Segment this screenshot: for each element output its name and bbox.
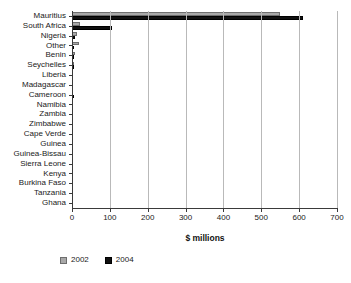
category-label: Guinea	[0, 139, 66, 149]
x-axis-tick	[186, 208, 187, 212]
gridline	[110, 11, 111, 208]
x-axis-tick-label: 0	[52, 213, 92, 223]
gridline	[337, 11, 338, 208]
category-label: Sierra Leone	[0, 159, 66, 169]
x-axis-tick	[148, 208, 149, 212]
category-label: Seychelles	[0, 60, 66, 70]
x-axis-tick-label: 100	[90, 213, 130, 223]
category-label: Mauritius	[0, 11, 66, 21]
x-axis-tick-label: 500	[241, 213, 281, 223]
chart-legend: 20022004	[60, 256, 134, 264]
legend-label: 2002	[71, 256, 89, 264]
x-axis-tick-label: 400	[203, 213, 243, 223]
x-axis-tick	[223, 208, 224, 212]
category-label: Burkina Faso	[0, 178, 66, 188]
category-label: Madagascar	[0, 80, 66, 90]
legend-item[interactable]: 2004	[105, 256, 134, 264]
category-label: Zambia	[0, 109, 66, 119]
gridline	[261, 11, 262, 208]
category-label: Namibia	[0, 100, 66, 110]
x-axis-tick-label: 700	[317, 213, 351, 223]
x-axis-tick-label: 300	[166, 213, 206, 223]
legend-item[interactable]: 2002	[60, 256, 89, 264]
legend-swatch-icon	[105, 257, 112, 264]
gridline	[223, 11, 224, 208]
legend-label: 2004	[116, 256, 134, 264]
category-label: Other	[0, 41, 66, 51]
x-axis-line	[72, 208, 338, 209]
x-axis-tick	[337, 208, 338, 212]
x-axis-tick	[110, 208, 111, 212]
category-label: Ghana	[0, 198, 66, 208]
bar-chart: MauritiusSouth AfricaNigeriaOtherBeninSe…	[0, 0, 351, 283]
x-axis-tick-label: 600	[279, 213, 319, 223]
category-label: Cameroon	[0, 90, 66, 100]
category-label: Kenya	[0, 169, 66, 179]
legend-swatch-icon	[60, 257, 67, 264]
gridline	[186, 11, 187, 208]
x-axis-tick	[299, 208, 300, 212]
x-axis-tick	[72, 208, 73, 212]
category-label: South Africa	[0, 21, 66, 31]
category-label: Tanzania	[0, 188, 66, 198]
x-axis-tick-label: 200	[128, 213, 168, 223]
gridline	[299, 11, 300, 208]
x-axis-tick	[261, 208, 262, 212]
category-label: Guinea-Bissau	[0, 149, 66, 159]
category-label: Zimbabwe	[0, 119, 66, 129]
category-label: Liberia	[0, 70, 66, 80]
gridline	[148, 11, 149, 208]
category-label: Cape Verde	[0, 129, 66, 139]
category-label: Nigeria	[0, 31, 66, 41]
y-axis-line	[72, 11, 73, 208]
plot-area	[72, 11, 337, 208]
x-axis-title: $ millions	[72, 233, 338, 243]
category-label: Benin	[0, 50, 66, 60]
